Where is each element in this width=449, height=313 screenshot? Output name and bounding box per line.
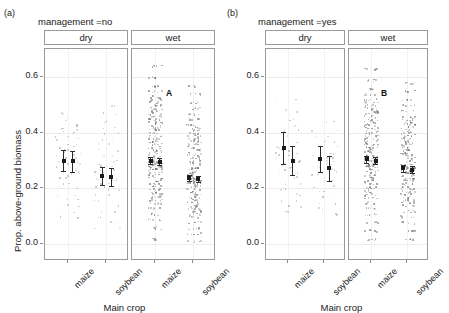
data-point: [377, 127, 379, 129]
data-point: [326, 163, 328, 165]
data-point: [408, 192, 410, 194]
data-point: [376, 98, 378, 100]
data-point: [402, 204, 404, 206]
data-point: [410, 144, 412, 146]
data-point: [332, 197, 334, 199]
data-point: [333, 121, 335, 123]
ytick-label-b-2: 0.2: [233, 181, 259, 191]
ytick-label-b-0: 0.6: [233, 70, 259, 80]
data-point: [375, 195, 377, 197]
data-point: [337, 146, 339, 148]
data-point: [409, 202, 411, 204]
panel-tag-b: (b): [227, 8, 238, 18]
data-point: [376, 108, 378, 110]
data-point: [280, 189, 282, 191]
data-point: [371, 115, 373, 117]
data-point: [366, 203, 368, 205]
data-point: [408, 126, 410, 128]
data-point: [404, 123, 406, 125]
data-point: [371, 193, 373, 195]
data-point: [364, 144, 366, 146]
data-point: [296, 200, 298, 202]
error-bar-cap-bottom: [327, 181, 332, 182]
data-point: [333, 161, 335, 163]
data-point: [409, 160, 411, 162]
data-point: [377, 144, 379, 146]
gridline-y-3: [266, 244, 344, 245]
data-point: [278, 147, 280, 149]
data-point: [293, 119, 295, 121]
data-point: [374, 222, 376, 224]
data-point: [366, 95, 368, 97]
data-point: [405, 143, 407, 145]
data-point: [367, 140, 369, 142]
data-point: [412, 142, 414, 144]
data-point: [368, 124, 370, 126]
data-point: [367, 180, 369, 182]
error-bar-cap-top: [290, 146, 295, 147]
data-point: [369, 121, 371, 123]
data-point: [311, 130, 313, 132]
data-point: [368, 166, 370, 168]
data-point: [364, 198, 366, 200]
error-bar-cap-bottom: [373, 164, 378, 165]
data-point: [275, 152, 277, 154]
data-point: [289, 167, 291, 169]
data-point: [402, 175, 404, 177]
data-point: [332, 157, 334, 159]
xtick-label-maize: maize: [292, 266, 316, 290]
data-point: [364, 121, 366, 123]
panel-group-b: (b)management =yes0.60.40.20.0drymaizeso…: [0, 0, 449, 313]
estimate-marker: [291, 159, 295, 163]
data-point: [374, 240, 376, 242]
data-point: [322, 196, 324, 198]
data-point: [365, 113, 367, 115]
data-point: [284, 169, 286, 171]
data-point: [313, 187, 315, 189]
estimate-marker: [327, 166, 331, 170]
data-point: [371, 109, 373, 111]
gridline-y-0: [266, 77, 344, 78]
data-point: [402, 216, 404, 218]
data-point: [297, 142, 299, 144]
data-point: [410, 193, 412, 195]
data-point: [407, 123, 409, 125]
data-point: [372, 147, 374, 149]
data-point: [408, 132, 410, 134]
data-point: [368, 239, 370, 241]
error-bar-cap-bottom: [410, 173, 415, 174]
data-point: [298, 161, 300, 163]
data-point: [365, 102, 367, 104]
data-point: [375, 112, 377, 114]
data-point: [377, 146, 379, 148]
data-point: [377, 152, 379, 154]
data-point: [366, 194, 368, 196]
data-point: [367, 128, 369, 130]
data-point: [372, 150, 374, 152]
estimate-marker: [365, 157, 369, 161]
data-point: [412, 126, 414, 128]
estimate-marker: [282, 146, 286, 150]
data-point: [402, 130, 404, 132]
x-axis-label-b: Main crop: [321, 302, 363, 313]
data-point: [331, 168, 333, 170]
xtick-mark-b-wet-0: [370, 260, 371, 263]
data-point: [377, 167, 379, 169]
estimate-marker: [410, 168, 414, 172]
data-point: [405, 105, 407, 107]
data-point: [410, 180, 412, 182]
data-point: [411, 217, 413, 219]
data-point: [367, 104, 369, 106]
annotation-letter-b: B: [381, 88, 387, 98]
gridline-y-1: [266, 133, 344, 134]
ytick-label-b-1: 0.4: [233, 126, 259, 136]
data-point: [409, 124, 411, 126]
data-point: [370, 172, 372, 174]
plot-panel-b-dry: [265, 48, 345, 260]
ytick-label-b-3: 0.0: [233, 237, 259, 247]
data-point: [402, 100, 404, 102]
data-point: [411, 158, 413, 160]
data-point: [377, 135, 379, 137]
data-point: [375, 68, 377, 70]
data-point: [285, 188, 287, 190]
